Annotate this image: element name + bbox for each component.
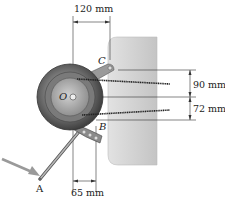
- dim-90mm: 90 mm: [193, 80, 225, 90]
- dim-120mm: 120 mm: [74, 4, 113, 14]
- brake-wheel: [37, 64, 103, 130]
- point-label-a: A: [36, 184, 43, 194]
- mechanism-diagram: [0, 0, 225, 202]
- point-a-pin: [38, 177, 41, 180]
- lever-arm: [40, 128, 82, 179]
- point-label-c: C: [98, 56, 106, 66]
- point-label-o: O: [59, 92, 67, 102]
- force-arrow: [2, 159, 40, 176]
- dim-72mm: 72 mm: [193, 104, 225, 114]
- fixed-plate: [108, 37, 157, 165]
- point-label-b: B: [99, 122, 106, 132]
- dim-65mm: 65 mm: [71, 188, 104, 198]
